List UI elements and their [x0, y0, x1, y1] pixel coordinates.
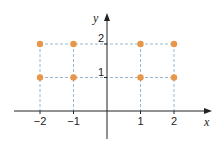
x-tick-label: 2 [171, 115, 177, 127]
x-tick-label: 1 [137, 115, 143, 127]
y-axis-label: y [92, 11, 99, 25]
data-point [137, 41, 143, 47]
y-tick-label: 1 [98, 66, 104, 78]
ticks: −2−11212 [34, 32, 177, 127]
data-point [171, 41, 177, 47]
data-point [37, 41, 43, 47]
data-point [37, 74, 43, 80]
data-point [70, 74, 76, 80]
y-tick-label: 2 [98, 32, 104, 44]
x-tick-label: −2 [34, 115, 47, 127]
x-tick-label: −1 [67, 115, 80, 127]
data-point [137, 74, 143, 80]
x-axis-arrow-icon [204, 108, 212, 114]
x-axis-label: x [203, 115, 210, 129]
coordinate-plane: −2−11212 x y [0, 0, 224, 143]
data-point [70, 41, 76, 47]
y-axis-arrow-icon [104, 13, 110, 21]
data-point [171, 74, 177, 80]
